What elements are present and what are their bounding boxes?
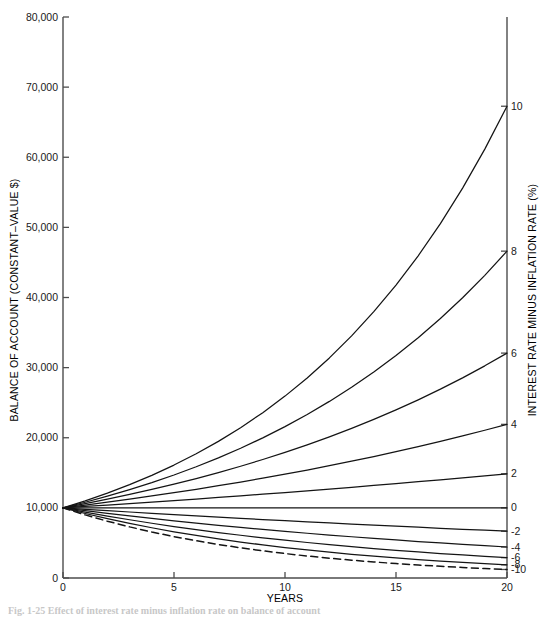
x-axis-tick-label: 15: [390, 581, 402, 593]
y-axis-left-tick-label: 60,000: [26, 151, 58, 163]
y-axis-left-tick-label: 80,000: [26, 11, 58, 23]
y-axis-left-tick-label: 70,000: [26, 81, 58, 93]
y-axis-right-tick-label: 2: [511, 467, 517, 479]
curve-rate-4: [63, 424, 507, 508]
figure-caption-strip: Fig. 1-25 Effect of interest rate minus …: [0, 607, 545, 619]
curve-rate-10: [63, 106, 507, 508]
y-axis-right-tick-label: -2: [511, 525, 520, 537]
y-axis-left-tick-label: 50,000: [26, 221, 58, 233]
curve-rate--10: [63, 508, 507, 570]
figure-container: 010,00020,00030,00040,00050,00060,00070,…: [0, 0, 545, 619]
line-chart: 010,00020,00030,00040,00050,00060,00070,…: [0, 0, 545, 619]
y-axis-right-tick-label: 0: [511, 501, 517, 513]
y-axis-left-tick-label: 30,000: [26, 361, 58, 373]
data-curves: [63, 106, 507, 569]
y-axis-right-ticks: 1086420-2-4-6-8-10: [501, 100, 526, 575]
x-axis-title: YEARS: [267, 592, 304, 604]
y-axis-right-tick-label: 6: [511, 347, 517, 359]
figure-caption: Fig. 1-25 Effect of interest rate minus …: [8, 607, 320, 616]
y-axis-left-tick-label: 20,000: [26, 431, 58, 443]
x-axis-tick-label: 5: [171, 581, 177, 593]
x-axis-tick-label: 20: [501, 581, 513, 593]
y-axis-right-tick-label: 8: [511, 245, 517, 257]
y-axis-left-tick-label: 0: [52, 572, 58, 584]
y-axis-left-title: BALANCE OF ACCOUNT (CONSTANT–VALUE $): [8, 178, 20, 421]
curve-rate-8: [63, 251, 507, 508]
y-axis-left-tick-label: 40,000: [26, 291, 58, 303]
x-axis-ticks: 05101520: [60, 572, 513, 593]
y-axis-right-title: INTEREST RATE MINUS INFLATION RATE (%): [526, 184, 538, 417]
y-axis-right-tick-label: 4: [511, 418, 517, 430]
curve-rate-2: [63, 474, 507, 508]
x-axis-tick-label: 0: [60, 581, 66, 593]
y-axis-right-tick-label: 10: [511, 100, 523, 112]
y-axis-right-tick-label: -10: [511, 563, 526, 575]
y-axis-left-tick-label: 10,000: [26, 501, 58, 513]
